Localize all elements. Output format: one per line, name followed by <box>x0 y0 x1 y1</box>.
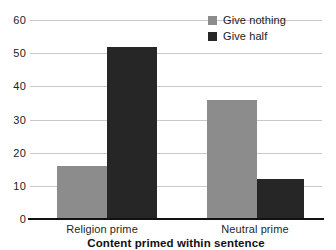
bar-chart: 60 50 40 30 20 10 0 Religion prime Neutr… <box>0 0 336 250</box>
gridline-30 <box>30 120 322 121</box>
bar-religion-give-half <box>107 47 157 219</box>
legend-swatch-icon-give-half <box>208 32 217 41</box>
bar-neutral-give-nothing <box>207 100 257 219</box>
y-tick-label-10: 10 <box>2 181 26 192</box>
y-tick-label-30: 30 <box>2 115 26 126</box>
x-tick-label-religion-prime: Religion prime <box>37 223 167 235</box>
legend: Give nothing Give half <box>208 13 328 45</box>
y-tick-label-20: 20 <box>2 148 26 159</box>
y-tick-label-60: 60 <box>2 15 26 26</box>
bar-religion-give-nothing <box>57 166 107 219</box>
plot-area <box>30 20 322 219</box>
legend-swatch-icon-give-nothing <box>208 16 217 25</box>
gridline-40 <box>30 86 322 87</box>
x-axis-baseline <box>28 218 324 220</box>
legend-item-give-half: Give half <box>208 29 328 43</box>
x-tick-label-neutral-prime: Neutral prime <box>190 223 320 235</box>
gridline-20 <box>30 153 322 154</box>
bar-neutral-give-half <box>257 179 304 219</box>
y-tick-label-0: 0 <box>2 214 26 225</box>
legend-label-give-half: Give half <box>223 30 267 42</box>
x-axis-title: Content primed within sentence <box>28 237 324 250</box>
gridline-50 <box>30 53 322 54</box>
legend-item-give-nothing: Give nothing <box>208 13 328 27</box>
legend-label-give-nothing: Give nothing <box>223 14 286 26</box>
y-tick-label-40: 40 <box>2 81 26 92</box>
y-axis: 60 50 40 30 20 10 0 <box>0 20 26 219</box>
y-tick-label-50: 50 <box>2 48 26 59</box>
